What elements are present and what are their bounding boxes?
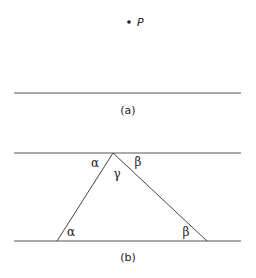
angle-beta-bottom: β (183, 225, 190, 239)
point-p (127, 20, 131, 24)
angle-gamma: γ (113, 167, 120, 181)
angle-alpha-top: α (91, 156, 99, 170)
figure-b: α γ β α β (b) (14, 153, 241, 264)
figure-a: P (a) (14, 16, 241, 117)
point-p-label: P (137, 16, 144, 29)
diagram-canvas: P (a) α γ β α β (b) (0, 0, 256, 278)
caption-b: (b) (120, 251, 136, 264)
angle-alpha-bottom: α (67, 225, 75, 239)
angle-beta-top: β (135, 155, 142, 169)
caption-a: (a) (120, 104, 135, 117)
